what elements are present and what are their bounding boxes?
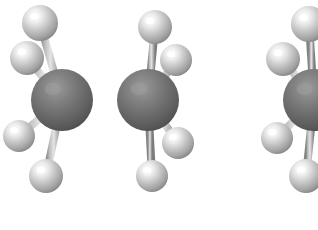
hydrogen-sphere <box>162 127 194 159</box>
hydrogen-sphere <box>261 122 293 154</box>
molecule-figure-canvas <box>0 0 318 230</box>
specular-highlight <box>167 51 175 57</box>
specular-highlight <box>36 166 45 173</box>
carbon-sphere <box>117 69 179 131</box>
hydrogen-sphere <box>10 41 44 75</box>
specular-highlight <box>143 167 151 173</box>
hydrogen-sphere <box>160 44 192 76</box>
specular-highlight <box>273 49 282 56</box>
specular-highlight <box>131 83 147 95</box>
hydrogen-sphere <box>266 42 300 76</box>
hydrogen-sphere <box>29 159 63 193</box>
specular-highlight <box>17 48 26 55</box>
specular-highlight <box>169 134 177 140</box>
specular-highlight <box>45 83 61 95</box>
molecule-scene-svg <box>0 0 318 230</box>
specular-highlight <box>268 129 276 135</box>
hydrogen-sphere <box>22 5 58 41</box>
carbon-sphere <box>31 69 93 131</box>
hydrogen-sphere <box>138 10 172 44</box>
hydrogen-sphere <box>3 120 35 152</box>
specular-highlight <box>296 166 305 173</box>
specular-highlight <box>30 13 39 20</box>
specular-highlight <box>145 17 154 24</box>
specular-highlight <box>10 127 18 133</box>
hydrogen-sphere <box>136 160 168 192</box>
specular-highlight <box>299 14 308 21</box>
specular-highlight <box>297 83 313 95</box>
